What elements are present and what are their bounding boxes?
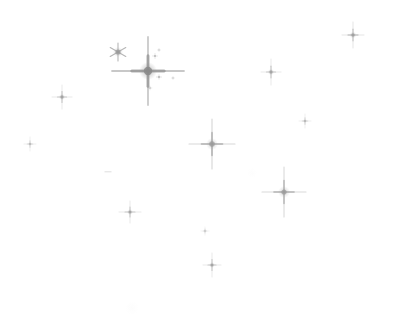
star-icon: [112, 194, 148, 230]
star-icon: [249, 157, 319, 227]
star-field-image: [0, 0, 393, 317]
star-icon: [177, 109, 247, 179]
star-icon: [147, 48, 163, 64]
plate-dash-mark: [105, 171, 112, 172]
star-icon: [151, 69, 168, 86]
star-icon: [193, 246, 231, 284]
star-icon: [143, 81, 157, 95]
plate-smudge: [125, 301, 139, 315]
star-icon: [152, 43, 166, 57]
star-icon: [99, 22, 197, 120]
star-icon: [333, 15, 374, 56]
star-icon: [292, 108, 318, 134]
plate-smudge: [247, 168, 257, 178]
star-icon: [195, 221, 215, 241]
plate-vignette: [0, 0, 393, 317]
star-icon: [100, 34, 136, 70]
star-layer: [0, 0, 393, 317]
star-icon: [17, 131, 43, 157]
star-icon: [251, 52, 291, 92]
star-icon: [43, 78, 81, 116]
star-icon: [166, 71, 180, 85]
